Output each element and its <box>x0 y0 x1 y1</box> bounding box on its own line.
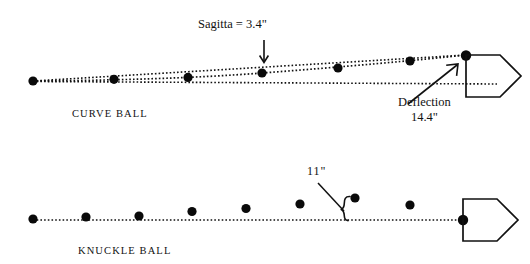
curve-ball-caption: CURVE BALL <box>72 108 148 120</box>
knuckle-ball-marker <box>405 200 414 209</box>
deflection-label: Deflection 14.4" <box>398 96 451 125</box>
knuckle-ball-marker <box>134 211 143 220</box>
sagitta-label: Sagitta = 3.4" <box>198 18 267 32</box>
knuckle-offset-label: 11" <box>307 165 326 178</box>
curve-ball-markers <box>28 50 471 85</box>
knuckle-ball-panel <box>28 183 518 241</box>
knuckle-ball-marker <box>187 207 196 216</box>
curve-ball-marker <box>109 75 118 84</box>
diagram-canvas <box>0 0 530 264</box>
curve-ball-marker <box>257 68 266 77</box>
knuckle-home-plate-icon <box>463 199 518 241</box>
curve-ball-marker <box>28 76 37 85</box>
knuckle-ball-caption: KNUCKLE BALL <box>78 245 171 257</box>
curve-ball-marker <box>405 56 414 65</box>
pitch-trajectory-diagram: Sagitta = 3.4" CURVE BALL Deflection 14.… <box>0 0 530 264</box>
knuckle-ball-marker <box>295 199 304 208</box>
curve-ball-marker <box>183 73 192 82</box>
curve-ball-marker <box>333 63 342 72</box>
knuckle-ball-marker <box>81 212 90 221</box>
curve-home-plate-icon <box>466 55 521 97</box>
knuckle-ball-marker <box>350 193 359 202</box>
curve-chord-line <box>33 55 466 81</box>
curve-straight-reference-line <box>33 82 497 85</box>
knuckle-ball-marker <box>241 204 250 213</box>
deflection-label-line2: 14.4" <box>398 111 451 125</box>
sagitta-arrow-icon <box>260 40 269 63</box>
knuckle-ball-marker <box>28 214 37 223</box>
knuckle-offset-leader-line <box>318 183 344 211</box>
deflection-label-line1: Deflection <box>398 95 451 109</box>
